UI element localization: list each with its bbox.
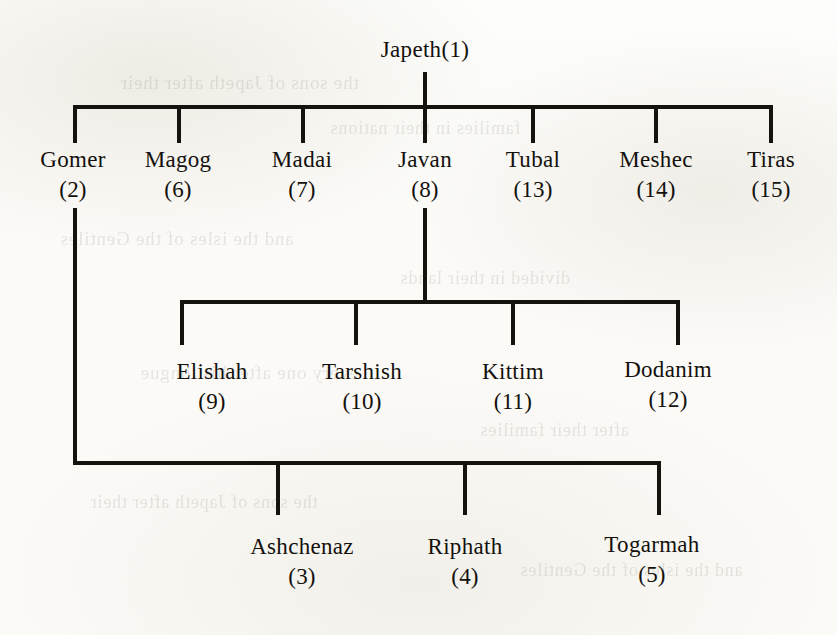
node-index-tiras: (15) (747, 178, 795, 201)
node-meshec: Meshec (14) (619, 148, 692, 201)
node-label-magog: Magog (145, 148, 212, 171)
connector-drop-magog (177, 105, 181, 143)
node-index-riphath: (4) (428, 565, 503, 588)
node-index-ashchenaz: (3) (250, 565, 354, 588)
connector-javan-descend (423, 208, 427, 303)
node-label-gomer: Gomer (40, 148, 105, 171)
node-index-elishah: (9) (176, 390, 247, 413)
connector-javan-children-bus (180, 300, 680, 304)
bleed-text-line: the sons of Japeth after their (120, 72, 359, 94)
node-riphath: Riphath (4) (428, 535, 503, 588)
node-dodanim: Dodanim (12) (624, 358, 712, 411)
bleed-text-line: after their families (480, 420, 629, 441)
node-index-dodanim: (12) (624, 388, 712, 411)
node-tubal: Tubal (13) (506, 148, 560, 201)
node-index-tubal: (13) (506, 178, 560, 201)
bleed-text-line: and the isles of the Gentiles (60, 228, 294, 250)
node-label-dodanim: Dodanim (624, 358, 712, 381)
node-japeth: Japeth(1) (381, 38, 469, 61)
node-index-meshec: (14) (619, 178, 692, 201)
connector-drop-javan (423, 105, 427, 143)
connector-drop-dodanim (676, 300, 680, 345)
connector-drop-tubal (531, 105, 535, 143)
node-label-riphath: Riphath (428, 535, 503, 558)
node-index-togarmah: (5) (604, 563, 699, 586)
bleed-text-line: the sons of Japeth after their (90, 492, 317, 513)
node-tarshish: Tarshish (10) (322, 360, 402, 413)
connector-drop-tarshish (354, 300, 358, 345)
node-label-ashchenaz: Ashchenaz (250, 535, 354, 558)
connector-drop-kittim (511, 300, 515, 345)
node-label-tiras: Tiras (747, 148, 795, 171)
node-kittim: Kittim (11) (482, 360, 544, 413)
connector-drop-ashchenaz (276, 461, 280, 515)
node-gomer: Gomer (2) (40, 148, 105, 201)
node-index-tarshish: (10) (322, 390, 402, 413)
node-tiras: Tiras (15) (747, 148, 795, 201)
node-elishah: Elishah (9) (176, 360, 247, 413)
node-ashchenaz: Ashchenaz (3) (250, 535, 354, 588)
node-label-madai: Madai (272, 148, 332, 171)
node-magog: Magog (6) (145, 148, 212, 201)
connector-drop-gomer (73, 105, 77, 143)
node-index-magog: (6) (145, 178, 212, 201)
connector-root-drop (423, 72, 427, 108)
connector-drop-madai (301, 105, 305, 143)
connector-drop-elishah (180, 300, 184, 345)
node-index-madai: (7) (272, 178, 332, 201)
node-togarmah: Togarmah (5) (604, 533, 699, 586)
node-label-javan: Javan (398, 148, 452, 171)
node-label-elishah: Elishah (176, 360, 247, 383)
node-javan: Javan (8) (398, 148, 452, 201)
genealogy-diagram: the sons of Japeth after their families … (0, 0, 837, 635)
node-label-japeth: Japeth(1) (381, 38, 469, 61)
paper-texture (0, 0, 837, 635)
node-label-togarmah: Togarmah (604, 533, 699, 556)
node-label-tarshish: Tarshish (322, 360, 402, 383)
node-label-tubal: Tubal (506, 148, 560, 171)
node-index-gomer: (2) (40, 178, 105, 201)
node-index-kittim: (11) (482, 390, 544, 413)
page-bleed-through: the sons of Japeth after their families … (0, 0, 837, 635)
node-label-meshec: Meshec (619, 148, 692, 171)
connector-drop-riphath (463, 461, 467, 515)
node-index-javan: (8) (398, 178, 452, 201)
node-label-kittim: Kittim (482, 360, 544, 383)
connector-drop-tiras (769, 105, 773, 143)
connector-gomer-descend (73, 208, 77, 465)
node-madai: Madai (7) (272, 148, 332, 201)
connector-drop-meshec (654, 105, 658, 143)
connector-gomer-children-bus (73, 461, 661, 465)
connector-drop-togarmah (657, 461, 661, 515)
